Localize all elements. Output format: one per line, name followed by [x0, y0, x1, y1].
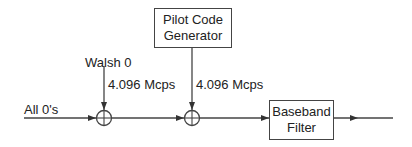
walsh-label: Walsh 0: [85, 55, 131, 70]
input-label: All 0's: [24, 102, 58, 117]
pilot-line2: Generator: [164, 28, 223, 44]
rate-label-2: 4.096 Mcps: [196, 77, 263, 92]
pilot-code-generator-block: Pilot Code Generator: [154, 8, 232, 48]
pilot-line1: Pilot Code: [163, 12, 223, 28]
baseband-filter-block: Baseband Filter: [269, 100, 334, 140]
output-arrowhead: [350, 115, 358, 121]
filter-line1: Baseband: [272, 104, 331, 120]
filter-line2: Filter: [287, 120, 316, 136]
rate-label-1: 4.096 Mcps: [108, 77, 175, 92]
